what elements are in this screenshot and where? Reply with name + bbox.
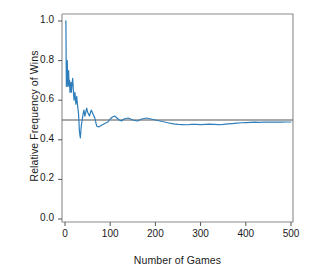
- plot-frame: [62, 14, 293, 222]
- plot-area: [0, 0, 309, 276]
- chart-figure: Relative Frequency of Wins Number of Gam…: [0, 0, 309, 276]
